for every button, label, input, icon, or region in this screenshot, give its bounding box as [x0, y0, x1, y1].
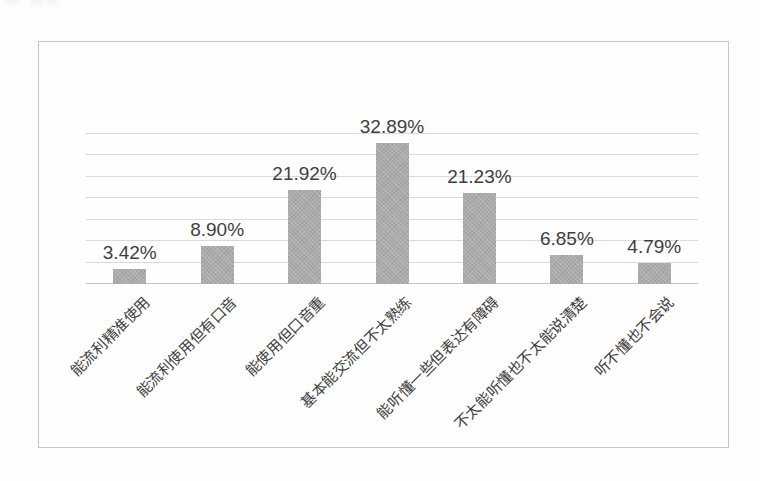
- bar-value-label: 21.92%: [245, 163, 365, 185]
- scanned-page: 3.42%能流利精准使用8.90%能流利使用但有口音21.92%能使用但口音重3…: [0, 0, 760, 481]
- bar-value-label: 4.79%: [594, 236, 714, 258]
- scan-artifact: [30, 0, 44, 6]
- scan-artifact: [46, 0, 58, 5]
- category-label: 听不懂也不会说: [589, 291, 678, 380]
- bar: [638, 263, 671, 284]
- bar: [113, 269, 146, 284]
- bar-chart-plot: 3.42%能流利精准使用8.90%能流利使用但有口音21.92%能使用但口音重3…: [86, 134, 698, 284]
- bar-value-label: 32.89%: [332, 116, 452, 138]
- bar-value-label: 8.90%: [157, 219, 277, 241]
- bar-value-label: 3.42%: [70, 242, 190, 264]
- bar: [201, 246, 234, 284]
- chart-frame: 3.42%能流利精准使用8.90%能流利使用但有口音21.92%能使用但口音重3…: [38, 41, 729, 448]
- bar: [463, 193, 496, 284]
- bar: [550, 255, 583, 284]
- bar: [376, 143, 409, 284]
- category-label: 能流利精准使用: [64, 291, 153, 380]
- category-label: 能使用但口音重: [239, 291, 328, 380]
- scan-artifact: [4, 0, 20, 5]
- bar-value-label: 21.23%: [419, 166, 539, 188]
- bar: [288, 190, 321, 284]
